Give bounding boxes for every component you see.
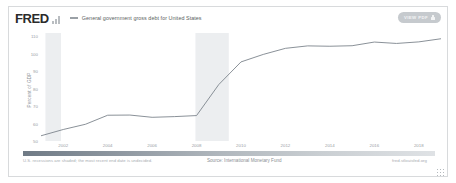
y-axis-tick-label: 100 [31, 51, 38, 56]
series-line [41, 39, 441, 136]
plot-area: Percent of GDP 1101009080706050 20022004… [9, 29, 449, 151]
view-pdf-label: VIEW PDF [404, 15, 428, 20]
x-axis-tick-label: 2002 [58, 143, 68, 148]
fred-graph-card: FRED General government gross debt for U… [8, 6, 448, 177]
x-axis-tick-label: 2018 [414, 143, 424, 148]
resize-grip-icon[interactable] [437, 169, 444, 176]
y-axis-tick-label: 70 [33, 104, 38, 109]
x-axis-tick-label: 2008 [192, 143, 202, 148]
graph-header: FRED General government gross debt for U… [9, 7, 447, 29]
x-axis-tick-label: 2010 [236, 143, 246, 148]
x-axis-ticks: 200220042006200820102012201420162018 [41, 141, 441, 151]
fred-logo[interactable]: FRED [15, 12, 61, 25]
y-axis-tick-label: 80 [33, 86, 38, 91]
graph-footer: U.S. recessions are shaded; the most rec… [9, 151, 449, 178]
recession-band [45, 33, 61, 141]
legend-label: General government gross debt for United… [82, 15, 202, 21]
recession-note: U.S. recessions are shaded; the most rec… [23, 158, 152, 163]
bar-chart-icon [52, 16, 61, 24]
recession-band [195, 33, 228, 141]
y-axis-tick-label: 90 [33, 69, 38, 74]
y-axis-ticks: 1101009080706050 [21, 29, 39, 141]
legend: General government gross debt for United… [70, 15, 202, 21]
lock-icon [431, 15, 435, 20]
fred-url[interactable]: fred.stlouisfed.org [392, 158, 427, 163]
x-axis-tick-label: 2006 [147, 143, 157, 148]
footer-gradient-bar [23, 151, 435, 156]
series-lines [41, 39, 441, 136]
fred-graph-screenshot: FRED General government gross debt for U… [0, 0, 456, 183]
x-axis-tick-label: 2004 [103, 143, 113, 148]
source-label: Source: International Monetary Fund [207, 158, 282, 163]
x-axis-tick-label: 2016 [369, 143, 379, 148]
y-axis-tick-label: 110 [31, 34, 38, 39]
view-pdf-button[interactable]: VIEW PDF [398, 12, 441, 23]
legend-swatch-icon [70, 17, 78, 19]
x-axis-tick-label: 2012 [281, 143, 291, 148]
recession-bands [45, 33, 228, 141]
chart-plot[interactable] [41, 33, 441, 141]
fred-logo-text: FRED [15, 11, 49, 26]
y-axis-tick-label: 60 [33, 121, 38, 126]
x-axis-tick-label: 2014 [325, 143, 335, 148]
y-axis-tick-label: 50 [33, 139, 38, 144]
